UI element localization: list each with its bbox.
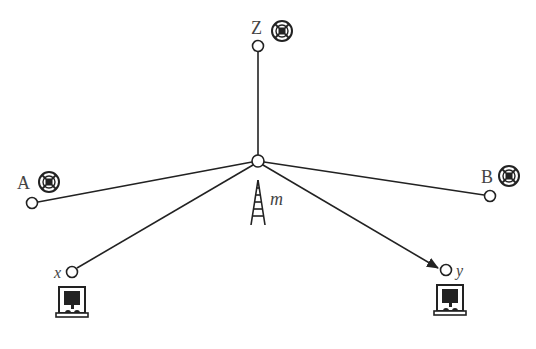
label-y: y [454, 262, 464, 280]
terminal-device-icon [56, 287, 88, 317]
label-m: m [270, 189, 283, 209]
edge-m-b [264, 162, 484, 195]
signal-station-icon [39, 172, 59, 192]
node-y[interactable] [441, 265, 452, 276]
network-diagram: m Z A B x [0, 0, 536, 349]
node-a[interactable] [27, 198, 38, 209]
terminal-device-icon [434, 285, 466, 315]
edge-m-a [38, 162, 252, 202]
signal-station-icon [499, 166, 519, 186]
radio-tower-icon [251, 180, 265, 225]
label-z: Z [251, 18, 262, 38]
node-x[interactable] [67, 267, 78, 278]
label-x: x [53, 264, 61, 281]
node-b[interactable] [485, 191, 496, 202]
node-z[interactable] [253, 41, 264, 52]
center-node-m[interactable] [252, 155, 264, 167]
label-a: A [17, 173, 30, 193]
edge-m-x [77, 165, 253, 268]
edge-m-y-arrow [263, 165, 438, 268]
label-b: B [481, 167, 493, 187]
signal-station-icon [272, 21, 292, 41]
